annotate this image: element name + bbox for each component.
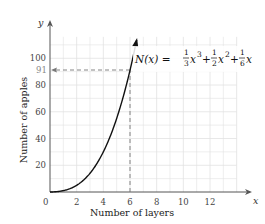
svg-text:x: x [246, 53, 252, 65]
svg-text:3: 3 [184, 59, 189, 68]
equation: N(x) = 1 3 x 3 + 1 2 x 2 + 1 6 x [133, 46, 253, 72]
y-tick-label: 40 [35, 134, 46, 144]
y-tick-label: 100 [30, 53, 46, 63]
x-tick-label: 12 [205, 197, 216, 207]
x-tick-label: 2 [74, 197, 79, 207]
y-axis-var: y [37, 17, 44, 28]
highlight-91-label: 91 [36, 65, 47, 75]
svg-text:1: 1 [212, 48, 217, 57]
equation-lhs: N(x) = [134, 53, 170, 65]
x-tick-label: 8 [154, 197, 159, 207]
svg-text:x: x [190, 53, 196, 65]
y-tick-label: 20 [35, 160, 46, 170]
x-axis-var: x [253, 195, 259, 206]
curve-arrow-icon [132, 38, 138, 47]
chart: 2468101220406080100 y x 0 91 Number of l… [0, 0, 265, 224]
svg-text:+: + [230, 53, 239, 65]
x-tick-label: 4 [101, 197, 106, 207]
x-tick-label: 6 [127, 197, 132, 207]
y-axis-title: Number of apples [18, 77, 29, 163]
x-axis-title: Number of layers [90, 207, 174, 218]
origin-label: 0 [43, 197, 48, 207]
y-tick-label: 80 [35, 80, 46, 90]
y-tick-label: 60 [35, 107, 46, 117]
tick-labels: 2468101220406080100 [30, 53, 216, 207]
svg-text:1: 1 [240, 48, 245, 57]
curve-n-of-x [50, 40, 137, 192]
svg-text:1: 1 [184, 48, 189, 57]
svg-text:2: 2 [212, 59, 217, 68]
svg-text:x: x [218, 53, 224, 65]
x-tick-label: 10 [178, 197, 189, 207]
svg-text:6: 6 [240, 59, 245, 68]
svg-text:+: + [202, 53, 211, 65]
